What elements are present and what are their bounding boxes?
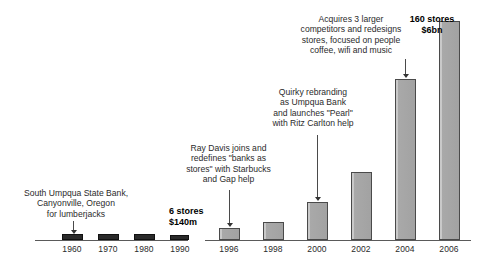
bar-1990 (170, 235, 189, 240)
bar-1980 (134, 234, 155, 240)
bar-2004 (395, 79, 416, 240)
tick-label-2000: 2000 (293, 244, 341, 254)
bar-1996 (219, 228, 240, 240)
axis-line-early-era (35, 240, 188, 241)
bar-1970 (98, 234, 119, 240)
tick-label-2006: 2006 (425, 244, 473, 254)
axis-line-growth-era (205, 240, 471, 241)
callout-end-value: 160 stores $6bn (386, 14, 478, 35)
bar-1998 (263, 222, 284, 240)
annotation-ray-davis: Ray Davis joins and redefines "banks as … (161, 143, 296, 184)
tick-label-1990: 1990 (156, 244, 204, 254)
bar-2006 (439, 21, 460, 240)
bar-1960 (62, 234, 83, 240)
tick-label-1996: 1996 (205, 244, 253, 254)
arrow-to-2004 (402, 59, 409, 78)
arrow-to-2000 (314, 135, 321, 201)
annotation-origin: South Umpqua State Bank, Canyonville, Or… (6, 188, 146, 219)
tick-label-2004: 2004 (381, 244, 429, 254)
arrow-to-1960 (70, 221, 77, 234)
tick-label-2002: 2002 (337, 244, 385, 254)
annotation-rebranding: Quirky rebranding as Umpqua Bank and lau… (248, 87, 378, 128)
bar-2002 (351, 172, 372, 240)
tick-label-1998: 1998 (249, 244, 297, 254)
bar-2000 (307, 202, 328, 240)
callout-start-value: 6 stores $140m (169, 206, 235, 227)
chart-canvas: 1960 1970 1980 1990 1996 1998 2000 2002 … (0, 0, 481, 272)
